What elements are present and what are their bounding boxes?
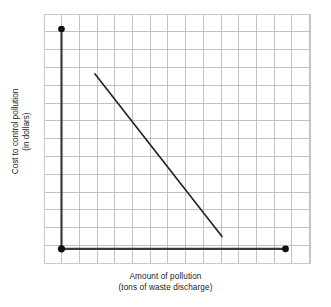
y-axis-label-line1: Cost to control pollution (12, 89, 23, 175)
plot-canvas (0, 0, 331, 307)
canvas-background (0, 0, 331, 307)
pollution-cost-graph-figure: Cost to control pollution (in dollars) A… (0, 0, 331, 307)
x-axis-label-line2: (tons of waste discharge) (0, 283, 331, 294)
x-axis-right-point-marker (282, 245, 289, 252)
y-axis-label-line2: (in dollars) (22, 89, 33, 175)
y-axis-top-point-marker (58, 26, 65, 33)
origin-point-marker (58, 245, 65, 252)
x-axis-label: Amount of pollution (tons of waste disch… (0, 272, 331, 293)
x-axis-label-line1: Amount of pollution (0, 272, 331, 283)
y-axis-label: Cost to control pollution (in dollars) (12, 89, 33, 175)
y-axis-label-container: Cost to control pollution (in dollars) (0, 0, 44, 263)
